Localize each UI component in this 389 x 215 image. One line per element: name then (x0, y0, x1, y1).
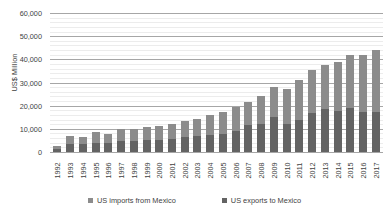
x-axis-tick-label: 1994 (78, 163, 87, 179)
bar-column (153, 13, 166, 152)
x-axis-tick-cell: 2000 (153, 154, 166, 188)
bar-column (127, 13, 140, 152)
bar-series-group (50, 13, 383, 152)
x-axis-tick-cell: 2002 (178, 154, 191, 188)
bar-segment-exports (66, 144, 74, 152)
bar-segment-imports (66, 136, 74, 144)
bar-segment-exports (181, 137, 189, 152)
bar-stack (206, 115, 214, 152)
x-axis-tick-label: 2006 (231, 163, 240, 179)
bar-segment-exports (232, 131, 240, 152)
bar-segment-imports (155, 126, 163, 139)
x-axis-tick-label: 2017 (371, 163, 380, 179)
x-axis-tick-label: 2010 (282, 163, 291, 179)
bar-segment-exports (53, 149, 61, 152)
x-axis-tick-cell: 2012 (306, 154, 319, 188)
bar-stack (155, 126, 163, 152)
x-axis-tick-label: 1992 (53, 163, 62, 179)
y-axis-tick-labels: 010,00020,00030,00040,00050,00060,000 (0, 13, 46, 152)
x-axis-tick-cell: 1999 (140, 154, 153, 188)
bar-column (76, 13, 89, 152)
legend-label: US exports to Mexico (231, 196, 301, 205)
x-axis-tick-label: 2016 (358, 163, 367, 179)
x-axis-tick-cell: 2006 (229, 154, 242, 188)
bar-segment-exports (321, 109, 329, 152)
x-axis-tick-cell: 1995 (89, 154, 102, 188)
x-axis-tick-label: 1998 (129, 163, 138, 179)
bar-column (140, 13, 153, 152)
x-axis-tick-label: 2004 (206, 163, 215, 179)
bar-column (51, 13, 64, 152)
bar-column (229, 13, 242, 152)
bar-segment-imports (143, 127, 151, 140)
bar-stack (79, 137, 87, 153)
bar-segment-imports (334, 62, 342, 111)
x-axis-tick-cell: 2011 (293, 154, 306, 188)
chart-legend: US imports from MexicoUS exports to Mexi… (0, 196, 389, 205)
bar-stack (104, 134, 112, 152)
bar-stack (219, 112, 227, 152)
bar-segment-exports (346, 108, 354, 152)
bar-column (293, 13, 306, 152)
bar-segment-imports (92, 132, 100, 143)
x-axis-tick-label: 2005 (218, 163, 227, 179)
bar-segment-exports (219, 134, 227, 152)
x-axis-tick-cell: 2009 (267, 154, 280, 188)
bar-column (217, 13, 230, 152)
gridline-major (50, 152, 383, 153)
x-axis-tick-label: 2003 (193, 163, 202, 179)
x-axis-tick-label: 1999 (142, 163, 151, 179)
x-axis-tick-cell: 2016 (357, 154, 370, 188)
bar-segment-exports (104, 143, 112, 152)
bar-stack (321, 65, 329, 152)
legend-label: US imports from Mexico (97, 196, 176, 205)
bar-stack (346, 55, 354, 152)
bar-segment-imports (219, 112, 227, 134)
y-axis-tick-label: 40,000 (20, 55, 42, 64)
bar-segment-exports (257, 124, 265, 152)
bar-segment-imports (130, 129, 138, 141)
bar-segment-imports (79, 137, 87, 144)
bar-segment-exports (206, 135, 214, 152)
bar-segment-exports (79, 144, 87, 152)
x-axis-tick-cell: 1997 (115, 154, 128, 188)
x-axis-tick-label: 1996 (104, 163, 113, 179)
bar-column (115, 13, 128, 152)
bar-segment-imports (206, 115, 214, 135)
bar-segment-imports (295, 80, 303, 120)
bar-stack (308, 70, 316, 152)
bar-segment-exports (130, 141, 138, 152)
bar-segment-exports (270, 117, 278, 152)
bar-stack (92, 132, 100, 152)
bar-stack (257, 96, 265, 152)
stacked-bar-chart: US$ Million 010,00020,00030,00040,00050,… (0, 0, 389, 215)
bar-segment-imports (244, 102, 252, 125)
bar-segment-imports (270, 87, 278, 116)
bar-column (102, 13, 115, 152)
bar-segment-imports (168, 124, 176, 139)
x-axis-tick-cell: 1993 (64, 154, 77, 188)
y-axis-tick-label: 60,000 (20, 9, 42, 18)
bar-column (306, 13, 319, 152)
bar-segment-exports (359, 112, 367, 152)
bar-column (89, 13, 102, 152)
legend-item[interactable]: US imports from Mexico (88, 196, 176, 205)
legend-swatch-imports-icon (88, 198, 93, 203)
legend-item[interactable]: US exports to Mexico (222, 196, 301, 205)
x-axis-tick-cell: 2007 (242, 154, 255, 188)
bar-stack (117, 129, 125, 152)
x-axis-tick-label: 2012 (308, 163, 317, 179)
x-axis-tick-cell: 2015 (344, 154, 357, 188)
x-axis-tick-label: 2014 (333, 163, 342, 179)
bar-segment-exports (372, 112, 380, 152)
x-axis-tick-cell: 2003 (191, 154, 204, 188)
bar-stack (130, 129, 138, 152)
bar-segment-imports (359, 55, 367, 112)
bar-stack (193, 119, 201, 152)
bar-stack (181, 121, 189, 152)
bar-column (166, 13, 179, 152)
x-axis-tick-cell: 2001 (166, 154, 179, 188)
bar-segment-exports (143, 140, 151, 152)
x-axis-tick-label: 1997 (117, 163, 126, 179)
y-axis-tick-label: 50,000 (20, 32, 42, 41)
